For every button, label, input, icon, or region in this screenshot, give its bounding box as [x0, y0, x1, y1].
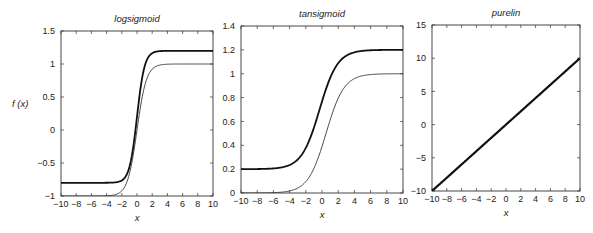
x-tick-label: −2: [301, 196, 311, 206]
x-tick-label: 6: [180, 199, 185, 209]
axes-frame: [432, 25, 580, 191]
y-tick-label: 0.4: [222, 140, 235, 150]
y-tick-label: 0: [50, 125, 55, 135]
y-tick-label: 5: [421, 87, 426, 97]
y-tick-label: 0.2: [222, 164, 235, 174]
y-tick-label: 10: [416, 53, 426, 63]
x-tick-label: −4: [284, 196, 294, 206]
y-tick-label: 0.6: [222, 117, 235, 127]
series-line-thick: [432, 58, 580, 191]
x-tick-label: −4: [101, 199, 111, 209]
y-tick-label: 1: [230, 69, 235, 79]
x-tick-label: −6: [268, 196, 278, 206]
x-tick-label: −8: [71, 199, 81, 209]
x-tick-label: 6: [368, 196, 373, 206]
x-tick-label: 4: [533, 194, 538, 204]
y-tick-label: −5: [416, 153, 426, 163]
x-tick-label: 8: [563, 194, 568, 204]
x-tick-label: 0: [503, 194, 508, 204]
x-tick-label: −6: [456, 194, 466, 204]
x-tick-label: 8: [384, 196, 389, 206]
x-tick-label: 2: [336, 196, 341, 206]
x-tick-label: −8: [442, 194, 452, 204]
y-tick-label: 0: [421, 120, 426, 130]
y-tick-label: −1: [45, 191, 55, 201]
x-axis-label: x: [503, 207, 510, 218]
x-tick-label: 4: [352, 196, 357, 206]
chart-title: purelin: [491, 7, 521, 18]
y-tick-label: 0.8: [222, 93, 235, 103]
y-tick-label: 1.4: [222, 21, 235, 31]
y-tick-label: 15: [416, 20, 426, 30]
x-tick-label: 4: [165, 199, 170, 209]
x-tick-label: −2: [486, 194, 496, 204]
x-tick-label: 0: [319, 196, 324, 206]
x-tick-label: −6: [86, 199, 96, 209]
figure: f (x) logsigmoid−10−8−6−4−20246810−1−0.5…: [0, 0, 593, 233]
x-tick-label: −4: [471, 194, 481, 204]
chart-title: tansigmoid: [299, 8, 346, 19]
y-tick-label: 1: [50, 59, 55, 69]
x-tick-label: −2: [117, 199, 127, 209]
series-line-thick: [61, 51, 213, 183]
x-tick-label: −10: [424, 194, 439, 204]
x-tick-label: 2: [150, 199, 155, 209]
x-tick-label: 2: [518, 194, 523, 204]
panel-purelin: purelin−10−8−6−4−20246810−10−5051015x: [411, 7, 585, 218]
series-line-thick: [241, 50, 403, 169]
y-tick-label: −10: [411, 186, 426, 196]
chart-title: logsigmoid: [114, 13, 160, 24]
series-line-thin: [241, 74, 403, 193]
panel-logsigmoid: logsigmoid−10−8−6−4−20246810−1−0.500.511…: [37, 13, 218, 223]
y-tick-label: 0: [230, 188, 235, 198]
x-tick-label: −8: [252, 196, 262, 206]
series-line-thin: [61, 64, 213, 196]
y-axis-label: f (x): [12, 98, 28, 109]
x-tick-label: 10: [575, 194, 585, 204]
x-axis-label: x: [134, 212, 141, 223]
y-tick-label: −0.5: [37, 158, 55, 168]
x-tick-label: 6: [548, 194, 553, 204]
x-tick-label: 8: [195, 199, 200, 209]
x-tick-label: 0: [134, 199, 139, 209]
y-tick-label: 0.5: [42, 92, 55, 102]
panel-tansigmoid: tansigmoid−10−8−6−4−2024681000.20.40.60.…: [222, 8, 408, 220]
y-tick-label: 1.2: [222, 45, 235, 55]
axes-frame: [241, 26, 403, 193]
x-tick-label: −10: [233, 196, 248, 206]
y-tick-label: 1.5: [42, 26, 55, 36]
x-tick-label: 10: [208, 199, 218, 209]
x-axis-label: x: [319, 209, 326, 220]
x-tick-label: 10: [398, 196, 408, 206]
x-tick-label: −10: [53, 199, 68, 209]
